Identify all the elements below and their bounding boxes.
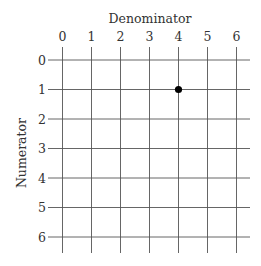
data-point — [175, 86, 182, 93]
y-tick-label: 3 — [38, 141, 46, 156]
x-tick-label: 6 — [233, 29, 241, 44]
data-points — [175, 86, 182, 93]
x-tick-label: 5 — [204, 29, 212, 44]
y-axis-title: Numerator — [14, 118, 29, 188]
x-tick-label: 0 — [59, 29, 67, 44]
y-tick-labels: 0123456 — [38, 53, 46, 245]
y-tick-label: 5 — [38, 200, 46, 215]
x-tick-label: 3 — [146, 29, 154, 44]
grid — [48, 47, 250, 253]
y-tick-label: 1 — [38, 82, 46, 97]
x-tick-label: 4 — [175, 29, 183, 44]
fraction-grid-chart: Denominator Numerator 0123456 0123456 — [0, 0, 261, 266]
y-tick-label: 4 — [38, 171, 46, 186]
y-tick-label: 2 — [38, 112, 46, 127]
y-tick-label: 0 — [38, 53, 46, 68]
x-tick-labels: 0123456 — [59, 29, 241, 44]
x-tick-label: 1 — [88, 29, 96, 44]
x-axis-title: Denominator — [109, 11, 192, 26]
x-tick-label: 2 — [117, 29, 125, 44]
y-tick-label: 6 — [38, 230, 46, 245]
